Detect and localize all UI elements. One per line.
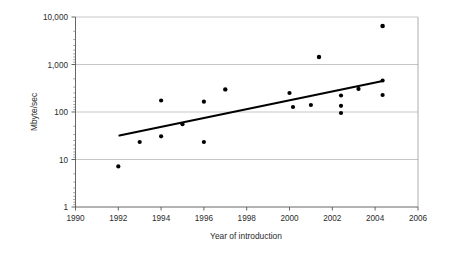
x-tick-label-1998: 1998 — [238, 214, 257, 223]
x-tick-label-2004: 2004 — [366, 214, 385, 223]
x-tick-label-1994: 1994 — [152, 214, 171, 223]
y-axis-tick-labels: 10,000 1,000 100 10 1 — [43, 13, 68, 212]
x-axis-tickmarks — [76, 207, 419, 211]
y-tick-label-1000: 1,000 — [48, 61, 69, 70]
y-tick-label-10000: 10,000 — [43, 13, 68, 22]
data-point — [287, 91, 291, 95]
y-tick-label-10: 10 — [59, 156, 69, 165]
y-axis-title: Mbyte/sec — [29, 93, 39, 131]
data-point — [380, 24, 385, 29]
data-point — [381, 78, 385, 82]
x-tick-label-1992: 1992 — [109, 214, 128, 223]
x-tick-label-2002: 2002 — [323, 214, 342, 223]
data-point — [223, 87, 227, 91]
scatter-plot-svg: 10,000 1,000 100 10 1 1990 1992 1994 199… — [0, 0, 450, 255]
x-tick-label-1996: 1996 — [195, 214, 214, 223]
data-point — [202, 140, 206, 144]
data-point — [159, 98, 163, 102]
data-point — [381, 93, 385, 97]
data-point — [180, 122, 184, 126]
data-point — [202, 100, 206, 104]
data-point — [339, 111, 343, 115]
y-tick-label-1: 1 — [63, 203, 68, 212]
x-axis-title: Year of introduction — [210, 231, 282, 241]
data-point — [309, 103, 313, 107]
data-point — [356, 87, 360, 91]
data-point — [116, 164, 120, 168]
x-tick-label-2006: 2006 — [409, 214, 428, 223]
chart-figure: 10,000 1,000 100 10 1 1990 1992 1994 199… — [0, 0, 450, 255]
data-point — [317, 55, 321, 59]
data-point — [138, 140, 142, 144]
x-axis-tick-labels: 1990 1992 1994 1996 1998 2000 2002 2004 … — [66, 214, 427, 223]
y-tick-label-100: 100 — [54, 108, 68, 117]
data-point — [339, 93, 343, 97]
data-point — [291, 105, 295, 109]
x-tick-label-1990: 1990 — [66, 214, 85, 223]
data-point — [339, 104, 343, 108]
x-tick-label-2000: 2000 — [280, 214, 299, 223]
data-point — [159, 134, 163, 138]
